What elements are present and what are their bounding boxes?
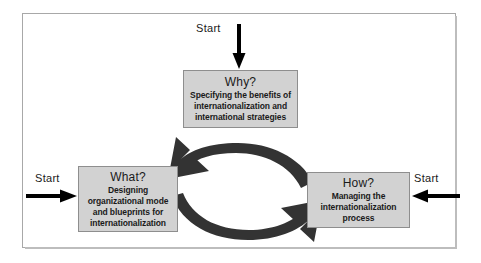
node-what-title: What? [110,170,146,184]
node-what-line-3: and blueprints for [90,207,166,218]
node-what-line-4: internationalization [87,218,169,229]
node-box-why[interactable]: Why? Specifying the benefits of internat… [183,70,298,128]
node-how-line-1: Managing the [329,191,389,202]
node-how-title: How? [343,176,374,190]
start-label-left: Start [35,172,60,184]
node-what-line-1: Designing [105,185,151,196]
start-arrow-top-icon [232,24,246,70]
node-box-how[interactable]: How? Managing the internationalization p… [307,172,410,228]
node-why-line-2: internationalization and [191,101,290,112]
start-label-right: Start [414,172,439,184]
node-box-what[interactable]: What? Designing organizational mode and … [78,166,178,232]
start-arrow-right-icon [412,189,460,203]
start-arrow-left-icon [26,189,78,203]
node-why-title: Why? [225,75,256,89]
node-how-line-3: process [340,213,378,224]
node-why-line-1: Specifying the benefits of [187,90,294,101]
start-label-top: Start [196,22,221,34]
node-what-line-2: organizational mode [85,196,172,207]
node-why-line-3: international strategies [192,112,289,123]
node-how-line-2: internationalization [318,202,400,213]
diagram-canvas: Why? Specifying the benefits of internat… [0,0,481,263]
